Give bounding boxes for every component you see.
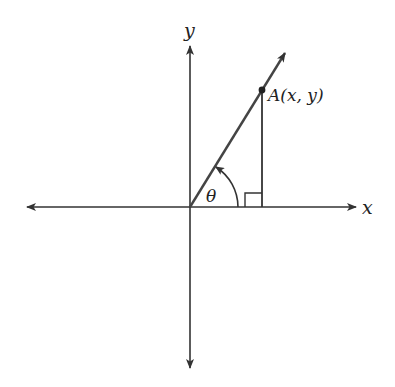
y-axis-label: y xyxy=(183,19,195,41)
x-axis-label: x xyxy=(362,196,373,218)
terminal-ray xyxy=(190,53,285,207)
point-a-label: A(x, y) xyxy=(266,85,324,105)
angle-arc xyxy=(216,167,238,207)
point-a-dot xyxy=(259,87,266,94)
coordinate-diagram: y x θ A(x, y) xyxy=(0,0,395,387)
right-angle-marker xyxy=(245,193,262,207)
theta-label: θ xyxy=(206,186,216,206)
